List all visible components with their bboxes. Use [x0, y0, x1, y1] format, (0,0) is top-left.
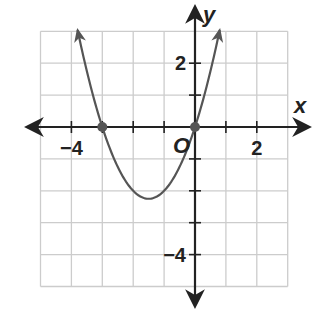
parabola-curve — [74, 28, 223, 199]
intercept-point — [190, 122, 200, 132]
y-tick-label: −4 — [163, 244, 187, 266]
origin-label: O — [173, 133, 190, 158]
x-tick-label: 2 — [251, 137, 262, 159]
y-tick-label: 2 — [175, 52, 186, 74]
axis-labels: y x O −422−4 — [60, 2, 307, 266]
x-axis-label: x — [293, 93, 307, 118]
y-axis-label: y — [202, 2, 217, 27]
intercept-point — [97, 122, 107, 132]
parabola-graph: y x O −422−4 — [0, 0, 320, 310]
parabola-path — [78, 30, 220, 199]
x-tick-label: −4 — [60, 137, 84, 159]
